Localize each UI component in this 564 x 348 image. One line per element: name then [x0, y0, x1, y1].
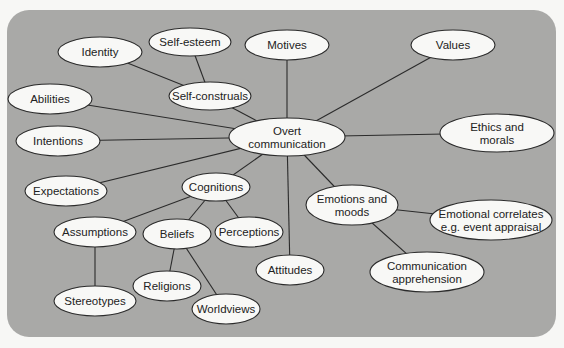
concept-map: OvertcommunicationIdentitySelf-esteemMot…	[0, 0, 564, 348]
node-religions: Religions	[133, 271, 201, 301]
node-abilities: Abilities	[8, 84, 92, 114]
node-label: e.g. event appraisal	[441, 221, 541, 233]
node-label: Intentions	[33, 135, 83, 147]
node-beliefs: Beliefs	[143, 219, 211, 249]
node-label: Religions	[143, 280, 191, 292]
node-ethics: Ethics andmorals	[440, 114, 554, 152]
node-label: Motives	[267, 39, 307, 51]
node-label: Cognitions	[189, 181, 244, 193]
node-label: Worldviews	[197, 303, 256, 315]
node-label: moods	[335, 206, 370, 218]
node-expectations: Expectations	[25, 176, 107, 206]
node-label: communication	[248, 138, 325, 150]
node-identity: Identity	[58, 37, 142, 67]
edge-attitudes-overt	[287, 137, 290, 270]
node-assumptions: Assumptions	[54, 217, 136, 247]
node-label: Beliefs	[160, 228, 195, 240]
node-label: Self-esteem	[159, 36, 220, 48]
node-label: Emotions and	[317, 193, 387, 205]
node-label: morals	[480, 134, 515, 146]
node-label: Values	[436, 39, 471, 51]
node-label: Attitudes	[268, 264, 313, 276]
node-label: Assumptions	[62, 226, 128, 238]
node-overt: Overtcommunication	[229, 118, 345, 156]
node-motives: Motives	[245, 30, 329, 60]
node-intentions: Intentions	[16, 126, 100, 156]
node-stereotypes: Stereotypes	[54, 286, 136, 316]
node-label: Expectations	[33, 185, 99, 197]
node-label: Overt	[273, 125, 302, 137]
node-label: Emotional correlates	[439, 208, 544, 220]
node-label: Communication	[387, 260, 467, 272]
node-label: Stereotypes	[64, 295, 126, 307]
node-attitudes: Attitudes	[256, 255, 324, 285]
node-values: Values	[411, 30, 495, 60]
node-selfesteem: Self-esteem	[149, 28, 231, 56]
node-selfconstruals: Self-construals	[169, 82, 251, 110]
node-perceptions: Perceptions	[215, 217, 283, 247]
node-label: Self-construals	[172, 90, 248, 102]
node-emocorrelates: Emotional correlatese.g. event appraisal	[430, 200, 552, 240]
node-cognitions: Cognitions	[182, 173, 250, 201]
node-apprehension: Communicationapprehension	[370, 252, 484, 292]
node-label: apprehension	[392, 273, 462, 285]
node-label: Abilities	[30, 93, 70, 105]
node-label: Ethics and	[470, 121, 524, 133]
node-emotions: Emotions andmoods	[306, 185, 398, 225]
node-label: Identity	[81, 46, 118, 58]
node-worldviews: Worldviews	[192, 294, 260, 324]
node-label: Perceptions	[219, 226, 280, 238]
nodes-layer: OvertcommunicationIdentitySelf-esteemMot…	[8, 28, 554, 324]
